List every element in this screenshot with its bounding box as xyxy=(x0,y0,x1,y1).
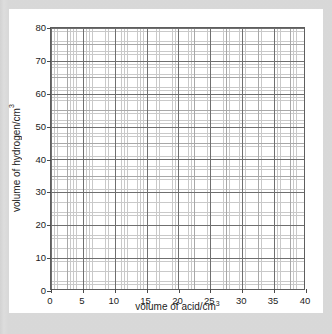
y-tick-label: 50 xyxy=(24,120,46,131)
y-tick-label: 40 xyxy=(24,153,46,164)
y-tick-label: 80 xyxy=(24,22,46,33)
y-tick-label: 10 xyxy=(24,252,46,263)
y-tick-mark xyxy=(47,291,51,292)
chart-figure: 0510152025303540 01020304050607080 volum… xyxy=(9,9,323,313)
page-frame: 0510152025303540 01020304050607080 volum… xyxy=(0,0,332,334)
x-axis-title: volume of acid/cm3 xyxy=(50,301,305,312)
y-axis-title-superscript: 3 xyxy=(8,105,15,109)
y-tick-label: 30 xyxy=(24,186,46,197)
y-axis-title-inner: volume of hydrogen/cm3 xyxy=(11,105,22,213)
figure-card: 0510152025303540 01020304050607080 volum… xyxy=(9,9,323,313)
y-tick-label: 70 xyxy=(24,54,46,65)
y-tick-label: 20 xyxy=(24,219,46,230)
plot-area xyxy=(50,27,305,290)
y-axis-title: volume of hydrogen/cm3 xyxy=(9,27,23,290)
x-tick-mark xyxy=(306,289,307,293)
x-axis-title-text: volume of acid/cm xyxy=(135,301,216,312)
data-series-layer xyxy=(51,28,306,291)
y-tick-label: 60 xyxy=(24,87,46,98)
y-tick-label: 0 xyxy=(24,285,46,296)
y-axis-title-text: volume of hydrogen/cm xyxy=(11,108,22,212)
x-axis-title-superscript: 3 xyxy=(216,300,220,307)
